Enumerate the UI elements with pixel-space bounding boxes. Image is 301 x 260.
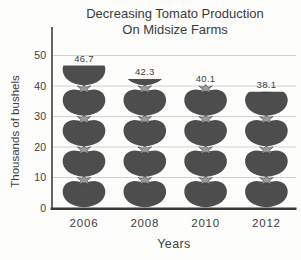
tomato-body [184, 120, 227, 146]
tomato-body [123, 120, 166, 146]
y-tick-label: 0 [40, 202, 46, 214]
tomato-icon [123, 146, 166, 177]
tomato-icon [184, 176, 227, 207]
tomato-icon [184, 146, 227, 177]
bar-2012 [245, 85, 288, 208]
tomato-body [123, 89, 166, 115]
tomato-icon [123, 176, 166, 207]
tomato-icon [184, 115, 227, 146]
y-tick-label: 40 [34, 80, 46, 92]
tomato-body [63, 89, 106, 115]
chart-title-line1: Decreasing Tomato Production [86, 6, 264, 21]
x-tick-label: 2006 [70, 217, 99, 229]
plot-area: 0102030405046.742.340.138.12006200820102… [34, 27, 296, 229]
tomato-icon [63, 146, 106, 177]
tomato-icon [123, 115, 166, 146]
x-tick-label: 2008 [130, 217, 159, 229]
x-tick-label: 2012 [252, 217, 281, 229]
tomato-body [184, 181, 227, 207]
y-tick-label: 20 [34, 141, 46, 153]
tomato-body [63, 150, 106, 176]
x-axis-title: Years [157, 237, 191, 251]
chart-title-line2: On Midsize Farms [122, 22, 228, 37]
tomato-body [63, 181, 106, 207]
y-tick-label: 10 [34, 171, 46, 183]
tomato-icon [184, 85, 227, 116]
y-tick-label: 50 [34, 49, 46, 61]
tomato-icon [123, 85, 166, 116]
y-tick-label: 30 [34, 110, 46, 122]
tomato-body [184, 89, 227, 115]
y-axis-title: Thousands of bushels [9, 75, 21, 188]
tomato-body [245, 181, 288, 207]
x-tick-label: 2010 [191, 217, 220, 229]
tomato-icon [63, 85, 106, 116]
bar-2006 [63, 54, 106, 207]
tomato-body [123, 181, 166, 207]
tomato-icon [63, 115, 106, 146]
tomato-icon [63, 176, 106, 207]
tomato-icon [245, 176, 288, 207]
tomato-body [184, 150, 227, 176]
tomato-body [245, 120, 288, 146]
tomato-icon [245, 146, 288, 177]
value-label: 40.1 [196, 73, 216, 84]
value-label: 42.3 [135, 66, 155, 77]
tomato-body [245, 150, 288, 176]
tomato-body [245, 89, 288, 115]
value-label: 38.1 [257, 79, 277, 90]
pictograph-chart-canvas: Decreasing Tomato Production On Midsize … [0, 0, 301, 260]
bar-2010 [184, 85, 227, 208]
tomato-production-chart: Decreasing Tomato Production On Midsize … [0, 0, 301, 260]
tomato-body [123, 150, 166, 176]
tomato-icon [245, 115, 288, 146]
tomato-body [63, 120, 106, 146]
value-label: 46.7 [74, 53, 94, 64]
